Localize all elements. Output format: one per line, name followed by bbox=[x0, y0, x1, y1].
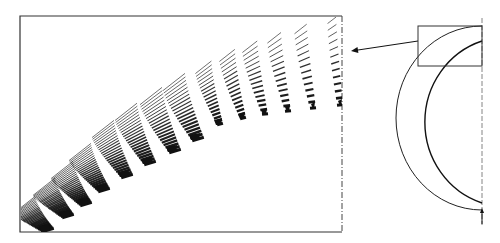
hatch-line bbox=[334, 83, 341, 85]
hatch-line bbox=[202, 87, 215, 94]
hatch-line bbox=[122, 123, 142, 135]
hatch-line bbox=[335, 90, 342, 91]
hatch-line bbox=[234, 101, 243, 105]
hatch-line bbox=[201, 84, 214, 92]
hatch-line bbox=[305, 89, 313, 91]
hatch-line bbox=[221, 58, 236, 68]
figure bbox=[0, 0, 500, 243]
hatch-line bbox=[296, 38, 308, 45]
outer-arc bbox=[396, 26, 482, 210]
hatch-line bbox=[273, 67, 285, 72]
bundle-tip bbox=[141, 157, 152, 164]
hatch-line bbox=[232, 97, 242, 101]
hatch-line bbox=[268, 38, 282, 47]
pointer-arrow bbox=[351, 41, 418, 53]
hatched-bundles bbox=[13, 17, 343, 232]
hatch-line bbox=[304, 83, 313, 85]
hatch-line bbox=[308, 102, 315, 103]
hatch-line bbox=[167, 87, 188, 101]
hatch-line bbox=[243, 46, 258, 56]
hatch-line bbox=[303, 76, 312, 79]
hatch-line bbox=[248, 71, 261, 76]
hatch-line bbox=[328, 32, 337, 37]
hatch-line bbox=[252, 86, 263, 89]
pointer-line bbox=[356, 41, 418, 50]
hatch-line bbox=[274, 73, 285, 77]
hatch-line bbox=[222, 62, 236, 72]
hatch-line bbox=[254, 90, 264, 93]
hatch-line bbox=[249, 76, 261, 80]
hatch-line bbox=[214, 116, 221, 119]
inset-cross-section bbox=[396, 18, 484, 225]
diagram-canvas bbox=[0, 0, 500, 243]
hatch-line bbox=[299, 57, 310, 62]
hatch-line bbox=[244, 51, 258, 60]
hatch-line bbox=[280, 95, 288, 97]
hatch-line bbox=[165, 80, 186, 95]
hatch-line bbox=[211, 109, 220, 112]
hatch-line bbox=[145, 103, 165, 116]
hatch-line bbox=[330, 54, 338, 57]
hatch-line bbox=[200, 80, 214, 89]
hatch-line bbox=[328, 17, 337, 24]
hatch-line bbox=[242, 41, 257, 53]
hatch-line bbox=[259, 104, 267, 105]
hatch-line bbox=[212, 113, 220, 116]
hatch-line bbox=[298, 51, 309, 56]
hatch-line bbox=[297, 44, 309, 50]
hatch-line bbox=[34, 180, 56, 197]
inner-arc bbox=[425, 41, 482, 203]
hatch-line bbox=[272, 61, 284, 66]
hatch-line bbox=[336, 98, 342, 99]
hatch-line bbox=[235, 105, 243, 108]
hatch-line bbox=[257, 100, 265, 102]
hatch-line bbox=[92, 120, 114, 137]
hatch-line bbox=[163, 73, 185, 90]
hatch-line bbox=[271, 56, 284, 62]
up-arrow-icon bbox=[480, 208, 484, 213]
hatch-line bbox=[237, 109, 244, 112]
hatch-line bbox=[276, 78, 286, 81]
hatch-line bbox=[332, 69, 340, 71]
hatch-line bbox=[300, 64, 311, 68]
hatch-line bbox=[329, 39, 338, 44]
hatch-line bbox=[328, 24, 337, 30]
hatch-line bbox=[330, 47, 338, 51]
hatch-line bbox=[279, 89, 288, 91]
hatch-line bbox=[282, 100, 290, 101]
hatch-line bbox=[231, 92, 241, 97]
hatch-line bbox=[223, 67, 237, 76]
arrowhead-icon bbox=[351, 47, 358, 53]
hatch-line bbox=[255, 95, 264, 97]
hatch-line bbox=[331, 61, 339, 64]
hatch-line bbox=[277, 84, 287, 87]
hatch-line bbox=[307, 95, 314, 96]
hatch-line bbox=[267, 33, 281, 44]
hatch-line bbox=[251, 81, 262, 85]
hatch-line bbox=[70, 148, 92, 164]
main-panel bbox=[13, 16, 343, 232]
hatch-line bbox=[333, 76, 340, 78]
hatch-line bbox=[146, 107, 166, 119]
bundle-tip bbox=[238, 112, 245, 119]
hatch-line bbox=[209, 105, 219, 109]
hatch-line bbox=[179, 114, 195, 121]
hatch-line bbox=[301, 70, 311, 73]
hatch-line bbox=[141, 91, 163, 107]
hatch-line bbox=[224, 71, 237, 79]
